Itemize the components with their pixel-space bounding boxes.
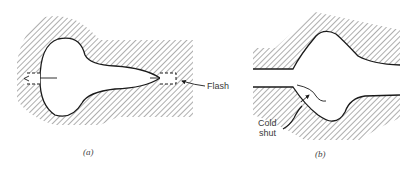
upper-die-b xyxy=(253,12,400,69)
right-flash-gutter xyxy=(160,73,176,84)
cold-shut-label-line1: Cold xyxy=(258,118,277,128)
left-flash-gutter xyxy=(24,73,40,84)
panel-b: Cold shut (b) xyxy=(253,12,400,159)
cold-shut-label-line2: shut xyxy=(259,128,277,138)
forging-diagram: Flash (a) Cold shut (b) xyxy=(0,0,415,170)
flash-label: Flash xyxy=(207,81,229,91)
caption-b: (b) xyxy=(315,149,326,159)
caption-a: (a) xyxy=(83,147,94,157)
panel-a: Flash (a) xyxy=(17,16,229,157)
